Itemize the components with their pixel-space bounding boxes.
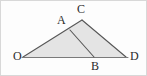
vertex-label-a: A [57, 14, 66, 26]
geometry-figure: O A C B D [0, 0, 147, 76]
vertex-label-c: C [77, 3, 85, 15]
vertex-label-d: D [130, 50, 139, 62]
figure-canvas [0, 0, 147, 76]
vertex-label-o: O [13, 50, 22, 62]
vertex-label-b: B [91, 60, 99, 72]
